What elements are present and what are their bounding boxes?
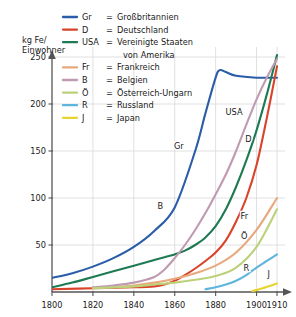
legend-name-r: Russland [117, 100, 154, 110]
legend-code-fr: Fr [82, 62, 90, 72]
legend-code-d: D [82, 25, 88, 35]
y-axis-title-line1: kg Fe/ [22, 35, 47, 45]
chart-canvas: 50100150200250 1800182018401860188019001… [0, 0, 296, 317]
legend-code-: Ö [82, 88, 88, 98]
x-tick-label-1820: 1820 [82, 300, 103, 310]
legend-equals-sign: = [106, 75, 113, 85]
inline-label-: Ö [241, 231, 247, 241]
legend-equals-sign: = [106, 25, 113, 35]
legend-equals-sign: = [106, 37, 113, 47]
legend-name-usa: Vereinigte Staaten [117, 37, 193, 47]
legend-equals-sign: = [106, 100, 113, 110]
legend-equals-sign: = [106, 88, 113, 98]
x-tick-label-1910: 1910 [267, 300, 288, 310]
y-tick-label-200: 200 [30, 99, 46, 109]
legend-name-: Österreich-Ungarn [117, 88, 192, 98]
legend-name-d: Deutschland [117, 25, 168, 35]
legend-code-b: B [82, 75, 88, 85]
legend-name-b: Belgien [117, 75, 148, 85]
legend-code-j: J [81, 113, 84, 123]
y-tick-label-100: 100 [30, 193, 46, 203]
inline-label-gr: Gr [174, 141, 184, 151]
y-tick-label-50: 50 [36, 240, 46, 250]
legend-name-fr: Frankreich [117, 62, 160, 72]
x-tick-label-1840: 1840 [123, 300, 144, 310]
legend-equals-sign: = [106, 113, 113, 123]
legend-name-j: Japan [116, 113, 140, 123]
x-tick-label-1860: 1860 [164, 300, 185, 310]
iron-consumption-chart: 50100150200250 1800182018401860188019001… [0, 0, 296, 317]
inline-label-usa: USA [226, 107, 243, 117]
y-axis-title-line2: Einwohner [22, 45, 66, 55]
x-tick-label-1800: 1800 [42, 300, 63, 310]
inline-label-d: D [245, 134, 251, 144]
legend-name-gr: Großbritannien [117, 12, 179, 22]
inline-label-j: J [267, 269, 270, 279]
legend-equals-sign: = [106, 62, 113, 72]
y-tick-label-150: 150 [30, 146, 46, 156]
legend-code-r: R [82, 100, 88, 110]
legend-code-gr: Gr [82, 12, 92, 22]
inline-label-b: B [158, 201, 164, 211]
x-tick-label-1900: 1900 [246, 300, 267, 310]
legend-name-usa-line2: von Amerika [123, 50, 175, 60]
x-tick-label-1880: 1880 [205, 300, 226, 310]
inline-label-r: R [243, 263, 249, 273]
inline-label-fr: Fr [241, 211, 249, 221]
legend-equals-sign: = [106, 12, 113, 22]
legend-code-usa: USA [82, 37, 99, 47]
